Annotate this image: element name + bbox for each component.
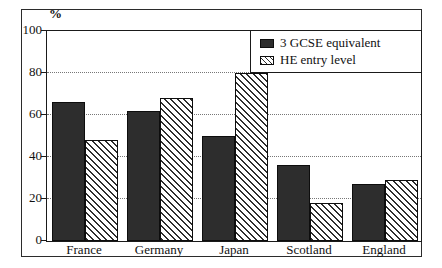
bar-he-entry-level-france bbox=[85, 140, 118, 241]
bar-group-france bbox=[52, 31, 118, 241]
y-tick-label-80: 80 bbox=[14, 65, 42, 79]
bar-he-entry-level-scotland bbox=[310, 203, 343, 241]
legend-label-he: HE entry level bbox=[280, 53, 356, 67]
legend-item-he: HE entry level bbox=[260, 53, 417, 67]
y-tick-label-20: 20 bbox=[14, 191, 42, 205]
x-category-label-scotland: Scotland bbox=[276, 242, 342, 258]
y-tick-label-100: 100 bbox=[14, 23, 42, 37]
bar-3-gcse-equivalent-scotland bbox=[277, 165, 310, 241]
legend-swatch-solid bbox=[260, 39, 274, 48]
bar-he-entry-level-england bbox=[385, 180, 418, 241]
bar-group-germany bbox=[127, 31, 193, 241]
bar-3-gcse-equivalent-france bbox=[52, 102, 85, 241]
x-category-label-germany: Germany bbox=[126, 242, 192, 258]
legend-label-gcse: 3 GCSE equivalent bbox=[280, 36, 380, 50]
x-category-label-japan: Japan bbox=[201, 242, 267, 258]
chart-figure: % 3 GCSE equivalent HE entry level 02040… bbox=[0, 0, 442, 268]
x-category-label-england: England bbox=[351, 242, 417, 258]
bar-3-gcse-equivalent-england bbox=[352, 184, 385, 241]
y-tick-label-0: 0 bbox=[14, 233, 42, 247]
legend-swatch-hatch bbox=[260, 56, 274, 65]
y-tick-100 bbox=[41, 30, 46, 31]
plot-area: 3 GCSE equivalent HE entry level bbox=[46, 30, 422, 242]
y-tick-label-60: 60 bbox=[14, 107, 42, 121]
y-tick-label-40: 40 bbox=[14, 149, 42, 163]
x-category-label-france: France bbox=[51, 242, 117, 258]
y-tick-0 bbox=[41, 240, 46, 241]
y-tick-60 bbox=[41, 114, 46, 115]
bar-he-entry-level-germany bbox=[160, 98, 193, 241]
bar-3-gcse-equivalent-japan bbox=[202, 136, 235, 241]
y-tick-80 bbox=[41, 72, 46, 73]
y-tick-40 bbox=[41, 156, 46, 157]
legend-item-gcse: 3 GCSE equivalent bbox=[260, 36, 417, 50]
bar-3-gcse-equivalent-germany bbox=[127, 111, 160, 241]
y-tick-20 bbox=[41, 198, 46, 199]
bar-he-entry-level-japan bbox=[235, 73, 268, 241]
y-axis-unit-label: % bbox=[49, 6, 62, 22]
legend: 3 GCSE equivalent HE entry level bbox=[250, 30, 422, 73]
